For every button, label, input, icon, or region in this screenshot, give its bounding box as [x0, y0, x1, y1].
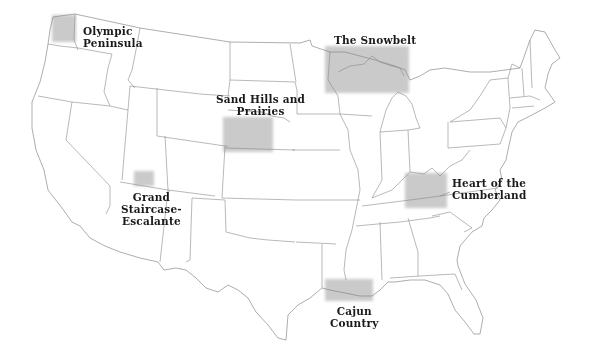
label-line: Country	[330, 317, 379, 329]
label-cajun-country: Cajun Country	[330, 305, 379, 329]
label-line: Cajun	[330, 305, 379, 317]
label-olympic-peninsula: Olympic Peninsula	[83, 25, 143, 49]
label-line: Olympic	[83, 25, 143, 37]
label-line: Grand	[121, 191, 182, 203]
label-line: Prairies	[216, 105, 305, 117]
label-line: The Snowbelt	[334, 34, 416, 46]
label-line: Cumberland	[452, 189, 526, 201]
label-line: Peninsula	[83, 37, 143, 49]
label-sand-hills-and-prairies: Sand Hills and Prairies	[216, 93, 305, 117]
label-line: Staircase-	[121, 203, 182, 215]
label-line: Escalante	[121, 215, 182, 227]
label-line: Sand Hills and	[216, 93, 305, 105]
label-line: Heart of the	[452, 177, 526, 189]
label-the-snowbelt: The Snowbelt	[334, 34, 416, 46]
label-grand-staircase-escalante: Grand Staircase- Escalante	[121, 191, 182, 227]
label-heart-of-the-cumberland: Heart of the Cumberland	[452, 177, 526, 201]
